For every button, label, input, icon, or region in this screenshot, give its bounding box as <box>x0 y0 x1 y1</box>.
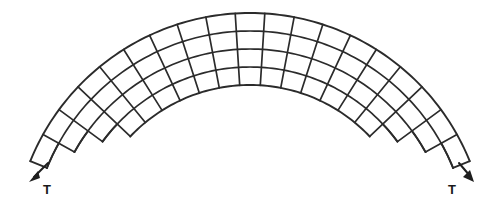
left-force-label: T <box>43 182 51 197</box>
figure-root: T T <box>0 0 500 210</box>
right-force-label: T <box>448 182 456 197</box>
arch-mesh-diagram: T T <box>0 0 500 210</box>
